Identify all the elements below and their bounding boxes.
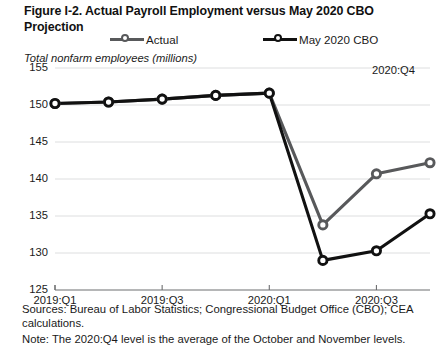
y-axis-tick-label: 135: [14, 210, 48, 221]
methodology-note: Note: The 2020:Q4 level is the average o…: [22, 332, 438, 346]
y-axis-tick-label: 140: [14, 173, 48, 184]
y-axis-tick-label: 150: [14, 99, 48, 110]
q4-annotation: 2020:Q4: [372, 64, 415, 76]
figure-notes: Sources: Bureau of Labor Statistics; Con…: [22, 302, 438, 347]
line-chart: [0, 0, 442, 300]
plot-area: 125130135140145150155 2019:Q12019:Q32020…: [0, 0, 442, 300]
figure-container: Figure I-2. Actual Payroll Employment ve…: [0, 0, 442, 358]
y-axis-tick-label: 145: [14, 136, 48, 147]
sources-note: Sources: Bureau of Labor Statistics; Con…: [22, 302, 438, 330]
y-axis-tick-label: 130: [14, 247, 48, 258]
y-axis-tick-label: 155: [14, 62, 48, 73]
